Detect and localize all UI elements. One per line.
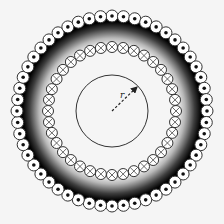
wire-out-of-page	[201, 105, 213, 117]
dot-icon	[194, 65, 198, 69]
wire-out-of-page	[129, 13, 141, 25]
wire-into-page	[43, 117, 54, 128]
dot-icon	[66, 193, 70, 197]
dot-icon	[99, 15, 103, 19]
wire-into-page	[107, 42, 118, 53]
wire-out-of-page	[117, 199, 129, 211]
dot-icon	[164, 187, 168, 191]
dot-icon	[144, 20, 148, 24]
wire-out-of-page	[200, 116, 212, 128]
dot-icon	[77, 198, 81, 202]
wire-out-of-page	[95, 199, 107, 211]
wire-out-of-page	[72, 16, 84, 28]
dot-icon	[110, 14, 114, 18]
dot-icon	[110, 204, 114, 208]
wire-out-of-page	[198, 128, 210, 140]
radius-label: r	[120, 90, 125, 100]
wire-into-page	[95, 169, 106, 180]
dot-icon	[199, 143, 203, 147]
dot-icon	[47, 38, 51, 42]
wire-into-page	[107, 170, 118, 181]
dot-icon	[16, 98, 20, 102]
dot-icon	[173, 38, 177, 42]
dot-icon	[202, 86, 206, 90]
wire-into-page	[46, 84, 57, 95]
dot-icon	[122, 204, 126, 208]
wire-out-of-page	[195, 71, 207, 83]
wire-into-page	[167, 127, 178, 138]
dot-icon	[205, 121, 209, 125]
dot-icon	[32, 163, 36, 167]
dot-icon	[154, 25, 158, 29]
dot-icon	[39, 172, 43, 176]
dot-icon	[39, 46, 43, 50]
wire-out-of-page	[83, 197, 95, 209]
wire-into-page	[46, 127, 57, 138]
dot-icon	[164, 31, 168, 35]
dot-icon	[21, 143, 25, 147]
wire-into-page	[118, 169, 129, 180]
wire-into-page	[128, 45, 139, 56]
solenoid-diagram: r	[0, 0, 224, 224]
dot-icon	[181, 172, 185, 176]
dot-icon	[21, 76, 25, 80]
wire-out-of-page	[14, 82, 26, 94]
dot-icon	[202, 132, 206, 136]
dot-icon	[194, 153, 198, 157]
dot-icon	[18, 86, 22, 90]
dot-icon	[87, 17, 91, 21]
dot-icon	[144, 198, 148, 202]
wire-into-page	[75, 50, 86, 61]
wire-out-of-page	[198, 82, 210, 94]
dot-icon	[133, 17, 137, 21]
dot-icon	[133, 201, 137, 205]
dot-icon	[122, 15, 126, 19]
dot-icon	[32, 55, 36, 59]
dot-icon	[16, 121, 20, 125]
wire-out-of-page	[200, 94, 212, 106]
wire-into-page	[170, 94, 181, 105]
wire-out-of-page	[95, 11, 107, 23]
wire-into-page	[162, 74, 173, 85]
wire-out-of-page	[17, 139, 29, 151]
wire-into-page	[85, 166, 96, 177]
dot-icon	[173, 180, 177, 184]
dot-icon	[87, 201, 91, 205]
dot-icon	[199, 76, 203, 80]
wire-out-of-page	[11, 105, 23, 117]
dot-icon	[77, 20, 81, 24]
wire-out-of-page	[14, 128, 26, 140]
dot-icon	[15, 109, 19, 113]
wire-into-page	[118, 42, 129, 53]
wire-into-page	[51, 138, 62, 149]
wire-into-page	[43, 94, 54, 105]
dot-icon	[66, 25, 70, 29]
wire-into-page	[43, 106, 54, 117]
dot-icon	[188, 55, 192, 59]
dot-icon	[26, 153, 30, 157]
dot-icon	[154, 193, 158, 197]
wire-out-of-page	[12, 94, 24, 106]
dot-icon	[181, 46, 185, 50]
wire-out-of-page	[106, 10, 118, 22]
dot-icon	[18, 132, 22, 136]
dot-icon	[99, 204, 103, 208]
wire-out-of-page	[106, 200, 118, 212]
wire-out-of-page	[129, 197, 141, 209]
wire-into-page	[167, 84, 178, 95]
dot-icon	[47, 180, 51, 184]
dot-icon	[205, 98, 209, 102]
dot-icon	[188, 163, 192, 167]
wire-out-of-page	[83, 13, 95, 25]
wire-into-page	[128, 166, 139, 177]
dot-icon	[56, 31, 60, 35]
wire-out-of-page	[12, 116, 24, 128]
wire-into-page	[95, 42, 106, 53]
wire-into-page	[170, 117, 181, 128]
dot-icon	[56, 187, 60, 191]
dot-icon	[205, 109, 209, 113]
wire-into-page	[85, 45, 96, 56]
dot-icon	[26, 65, 30, 69]
wire-out-of-page	[117, 11, 129, 23]
wire-into-page	[171, 106, 182, 117]
